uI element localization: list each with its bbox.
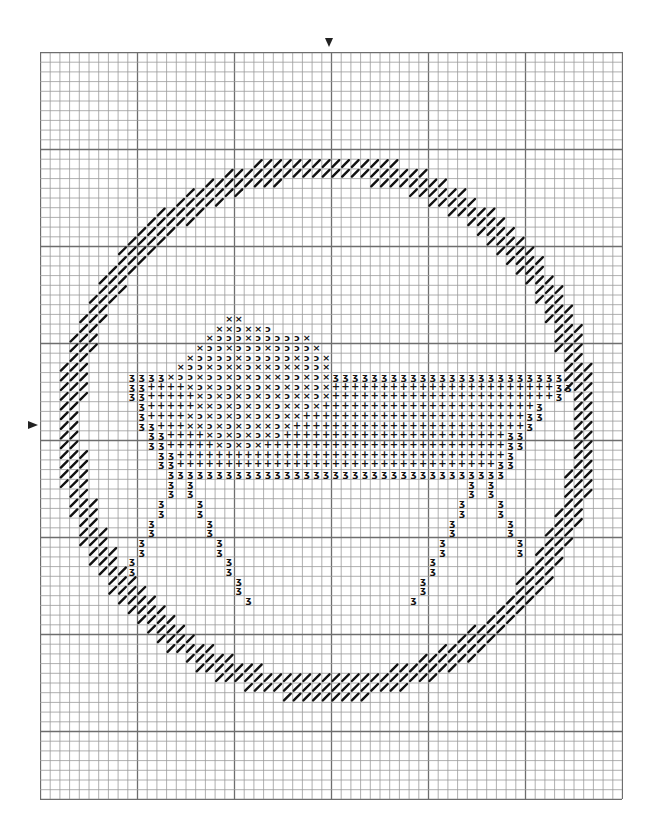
slash-stitch xyxy=(206,645,213,652)
slash-stitch xyxy=(177,199,184,206)
slash-stitch xyxy=(507,597,514,604)
slash-stitch xyxy=(187,209,194,216)
slash-stitch xyxy=(80,325,87,332)
slash-stitch xyxy=(255,674,262,681)
stitch-symbol-z: ʒ xyxy=(139,420,145,431)
slash-stitch xyxy=(517,606,524,613)
slash-stitch xyxy=(129,257,136,264)
slash-stitch xyxy=(61,374,68,381)
slash-stitch xyxy=(168,616,175,623)
slash-stitch xyxy=(400,665,407,672)
slash-stitch xyxy=(303,170,310,177)
slash-stitch xyxy=(585,442,592,449)
slash-stitch xyxy=(488,218,495,225)
slash-stitch xyxy=(556,529,563,536)
slash-stitch xyxy=(565,480,572,487)
slash-stitch xyxy=(100,529,107,536)
center-row-arrow-icon xyxy=(28,421,38,429)
slash-stitch xyxy=(206,189,213,196)
stitch-symbol-z: ʒ xyxy=(343,468,349,479)
center-column-arrow-icon xyxy=(325,38,333,47)
stitch-symbol-z: ʒ xyxy=(478,468,484,479)
slash-stitch xyxy=(585,412,592,419)
slash-stitch xyxy=(90,558,97,565)
slash-stitch xyxy=(61,471,68,478)
slash-stitch xyxy=(71,480,78,487)
slash-stitch xyxy=(236,189,243,196)
slash-stitch xyxy=(245,180,252,187)
slash-stitch xyxy=(527,577,534,584)
stitch-symbol-z: ʒ xyxy=(236,584,242,595)
slash-stitch xyxy=(459,209,466,216)
stitch-symbol-z: ʒ xyxy=(517,546,523,557)
slash-stitch xyxy=(333,160,340,167)
slash-stitch xyxy=(420,189,427,196)
slash-stitch xyxy=(556,345,563,352)
slash-stitch xyxy=(303,694,310,701)
slash-stitch xyxy=(536,568,543,575)
slash-stitch xyxy=(371,684,378,691)
slash-stitch xyxy=(139,616,146,623)
slash-stitch xyxy=(546,577,553,584)
stitch-symbol-z: ʒ xyxy=(449,468,455,479)
slash-stitch xyxy=(119,248,126,255)
slash-stitch xyxy=(139,248,146,255)
slash-stitch xyxy=(226,665,233,672)
slash-stitch xyxy=(236,665,243,672)
slash-stitch xyxy=(71,354,78,361)
slash-stitch xyxy=(459,189,466,196)
stitch-symbol-z: ʒ xyxy=(304,468,310,479)
slash-stitch xyxy=(80,461,87,468)
slash-stitch xyxy=(507,606,514,613)
slash-stitch xyxy=(148,228,155,235)
slash-stitch xyxy=(139,257,146,264)
slash-stitch xyxy=(168,218,175,225)
slash-stitch xyxy=(71,403,78,410)
slash-stitch xyxy=(565,335,572,342)
slash-stitch xyxy=(507,257,514,264)
slash-stitch xyxy=(565,471,572,478)
slash-stitch xyxy=(187,636,194,643)
slash-stitch xyxy=(177,218,184,225)
slash-stitch xyxy=(284,160,291,167)
slash-stitch xyxy=(468,218,475,225)
slash-stitch xyxy=(274,170,281,177)
slash-stitch xyxy=(158,218,165,225)
slash-stitch xyxy=(575,364,582,371)
slash-stitch xyxy=(80,471,87,478)
slash-stitch xyxy=(71,471,78,478)
slash-stitch xyxy=(245,665,252,672)
slash-stitch xyxy=(546,306,553,313)
slash-stitch xyxy=(100,296,107,303)
stitch-symbol-z: ʒ xyxy=(420,584,426,595)
slash-stitch xyxy=(536,257,543,264)
slash-stitch xyxy=(381,674,388,681)
slash-stitch xyxy=(61,412,68,419)
slash-stitch xyxy=(536,296,543,303)
slash-stitch xyxy=(546,296,553,303)
slash-stitch xyxy=(565,374,572,381)
slash-stitch xyxy=(255,160,262,167)
slash-stitch xyxy=(546,558,553,565)
slash-stitch xyxy=(449,209,456,216)
slash-stitch xyxy=(556,548,563,555)
slash-stitch xyxy=(488,626,495,633)
stitch-symbol-z: ʒ xyxy=(391,468,397,479)
slash-stitch xyxy=(478,626,485,633)
slash-stitch xyxy=(71,509,78,516)
stitch-symbol-z: ʒ xyxy=(420,468,426,479)
slash-stitch xyxy=(61,393,68,400)
slash-stitch xyxy=(80,480,87,487)
slash-stitch xyxy=(313,674,320,681)
slash-stitch xyxy=(323,684,330,691)
stitch-symbol-z: ʒ xyxy=(333,468,339,479)
slash-stitch xyxy=(507,238,514,245)
slash-stitch xyxy=(71,461,78,468)
slash-stitch xyxy=(71,500,78,507)
slash-stitch xyxy=(459,199,466,206)
stitch-symbol-z: ʒ xyxy=(149,439,155,450)
slash-stitch xyxy=(420,655,427,662)
slash-stitch xyxy=(80,529,87,536)
slash-stitch xyxy=(129,606,136,613)
slash-stitch xyxy=(274,674,281,681)
